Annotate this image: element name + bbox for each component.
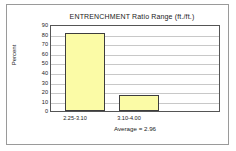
- figure-outer-frame: ENTRENCHMENT Ratio Range (ft./ft.) Perce…: [6, 4, 229, 145]
- y-tick-label: 50: [34, 60, 48, 66]
- y-axis-label: Percent: [11, 32, 17, 78]
- x-tick-label: 3.10-4.00: [99, 115, 159, 121]
- y-tick-label: 70: [34, 41, 48, 47]
- y-tick-label: 40: [34, 70, 48, 76]
- y-tick-label: 80: [34, 32, 48, 38]
- x-tick-label: 2.25-3.10: [45, 115, 105, 121]
- average-annotation: Average = 2.96: [50, 125, 220, 132]
- y-tick-label: 30: [34, 80, 48, 86]
- chart-title: ENTRENCHMENT Ratio Range (ft./ft.): [37, 13, 227, 20]
- chart-figure: ENTRENCHMENT Ratio Range (ft./ft.) Perce…: [0, 0, 236, 151]
- y-tick-label: 90: [34, 22, 48, 28]
- y-tick-label: 20: [34, 89, 48, 95]
- y-axis-ticks: 90 80 70 60 50 40 30 20 10 0: [32, 25, 48, 112]
- bar: [119, 95, 158, 111]
- y-tick-label: 10: [34, 99, 48, 105]
- y-tick-label: 0: [34, 108, 48, 114]
- y-tick-label: 60: [34, 51, 48, 57]
- plot-area: [50, 25, 220, 112]
- bar: [65, 33, 104, 111]
